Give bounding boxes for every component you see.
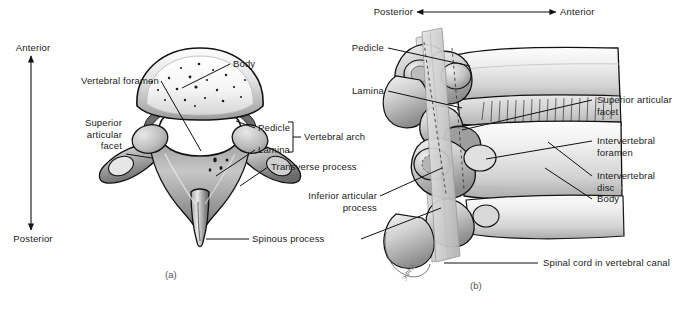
label-lamina-a: Lamina xyxy=(258,144,290,156)
label-vertebral-foramen: Vertebral foramen xyxy=(45,75,159,87)
orientation-posterior-top: Posterior xyxy=(355,6,413,18)
figure-canvas: Anterior Posterior Posterior Anterior Bo… xyxy=(0,0,684,314)
label-body-b: Body xyxy=(597,193,619,205)
panel-b-id: (b) xyxy=(470,280,482,291)
orientation-posterior-left: Posterior xyxy=(2,233,64,245)
label-spinal-cord: Spinal cord in vertebral canal xyxy=(543,257,670,269)
label-pedicle-a: Pedicle xyxy=(258,122,290,134)
label-superior-articular-facet-b: Superior articular facet xyxy=(597,94,672,117)
label-spinous-process: Spinous process xyxy=(252,233,324,245)
orientation-anterior-left: Anterior xyxy=(2,42,64,54)
label-transverse-process: Transverse process xyxy=(271,161,357,173)
label-pedicle-b: Pedicle xyxy=(330,42,384,54)
label-intervertebral-disc: Intervertebral disc xyxy=(597,170,655,193)
label-body-a: Body xyxy=(233,58,255,70)
panel-a-id: (a) xyxy=(165,269,177,280)
label-intervertebral-foramen: Intervertebral foramen xyxy=(597,135,655,158)
label-lamina-b: Lamina xyxy=(330,85,384,97)
label-vertebral-arch: Vertebral arch xyxy=(304,131,365,143)
orientation-anterior-top: Anterior xyxy=(560,6,594,18)
label-superior-articular-facet-a: Superior articular facet xyxy=(60,117,122,152)
label-inferior-articular-process: Inferior articular process xyxy=(287,190,377,213)
panel-b-illustration xyxy=(380,18,630,290)
